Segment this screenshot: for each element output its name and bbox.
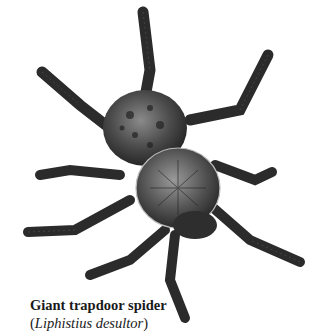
figure-caption: Giant trapdoor spider (Liphistius desult… bbox=[30, 296, 167, 332]
scientific-name: Liphistius desultor bbox=[35, 315, 143, 331]
figure: Giant trapdoor spider (Liphistius desult… bbox=[0, 0, 321, 335]
scientific-name-line: (Liphistius desultor) bbox=[30, 314, 167, 332]
spider-illustration bbox=[0, 0, 321, 335]
common-name: Giant trapdoor spider bbox=[30, 296, 167, 314]
close-paren: ) bbox=[143, 315, 148, 331]
